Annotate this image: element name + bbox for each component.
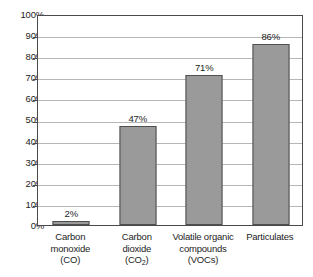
x-label-line: (VOCs) — [166, 254, 240, 266]
bar-particulates[interactable] — [252, 44, 289, 225]
x-label-line: (CO) — [37, 254, 104, 266]
bar-carbon-monoxide[interactable] — [53, 221, 90, 225]
x-label-part: (CO — [125, 254, 142, 265]
bar-vocs[interactable] — [186, 75, 223, 225]
bar-value-vocs: 71% — [195, 63, 213, 73]
x-axis-label-particulates: Particulates — [237, 231, 304, 243]
plot-area: 2% 47% 71% 86% — [37, 15, 303, 226]
bar-value-carbon-monoxide: 2% — [65, 209, 78, 219]
bar-slot-vocs: 71% — [171, 16, 238, 225]
bar-chart: 100% 90% 80% 70% 60% 50% 40% 30% 20% 10%… — [0, 0, 313, 277]
subscript-2: 2 — [142, 259, 146, 266]
x-label-line: Volatile organic — [166, 231, 240, 243]
bar-carbon-dioxide[interactable] — [119, 126, 156, 225]
x-label-line: Particulates — [237, 231, 304, 243]
x-label-line-formula: (CO2) — [104, 254, 171, 267]
x-label-line: dioxide — [104, 243, 171, 255]
x-axis-label-carbon-monoxide: Carbon monoxide (CO) — [37, 231, 104, 266]
bar-value-particulates: 86% — [262, 32, 280, 42]
x-axis-label-carbon-dioxide: Carbon dioxide (CO2) — [104, 231, 171, 267]
x-axis-label-vocs: Volatile organic compounds (VOCs) — [166, 231, 240, 266]
x-label-line: compounds — [166, 243, 240, 255]
bar-slot-particulates: 86% — [238, 16, 305, 225]
bar-slot-carbon-monoxide: 2% — [38, 16, 105, 225]
bar-value-carbon-dioxide: 47% — [129, 114, 147, 124]
x-label-line: Carbon — [37, 231, 104, 243]
bar-slot-carbon-dioxide: 47% — [105, 16, 172, 225]
x-label-line: Carbon — [104, 231, 171, 243]
x-label-line: monoxide — [37, 243, 104, 255]
